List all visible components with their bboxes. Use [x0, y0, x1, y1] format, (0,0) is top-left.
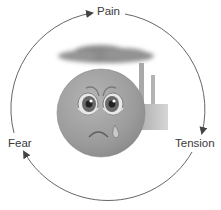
diagram-graphics — [0, 0, 221, 210]
arrow-tension-to-fear — [24, 152, 192, 200]
pain-cycle-diagram: Pain Tension Fear — [0, 0, 221, 210]
node-label-pain: Pain — [97, 6, 120, 18]
node-label-fear: Fear — [8, 138, 32, 150]
smog-cloud-icon — [58, 45, 154, 63]
node-label-tension: Tension — [175, 138, 215, 150]
sad-crying-face-icon — [57, 69, 145, 157]
